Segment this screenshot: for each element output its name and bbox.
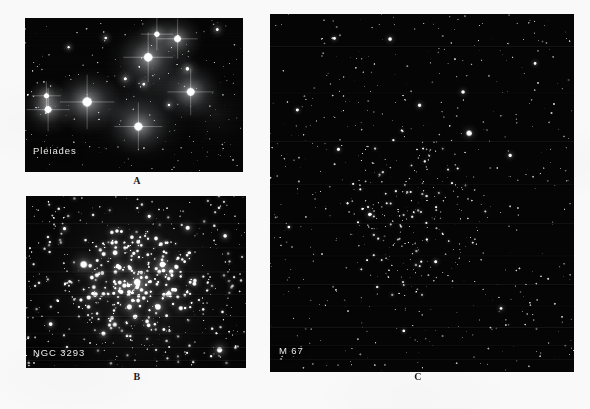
ngc3293-starfield-canvas: [26, 196, 246, 368]
panel-c-caption: C: [398, 371, 438, 382]
panel-b-caption: B: [117, 371, 157, 382]
panel-b-ngc3293: [26, 196, 246, 368]
panel-c-m67: [270, 14, 574, 372]
panel-a-pleiades: [25, 18, 243, 172]
pleiades-starfield-canvas: [25, 18, 243, 172]
m67-starfield-canvas: [270, 14, 574, 372]
figure-plate: Pleiades A NGC 3293 B M 67 C: [0, 0, 590, 409]
panel-a-caption: A: [117, 175, 157, 186]
